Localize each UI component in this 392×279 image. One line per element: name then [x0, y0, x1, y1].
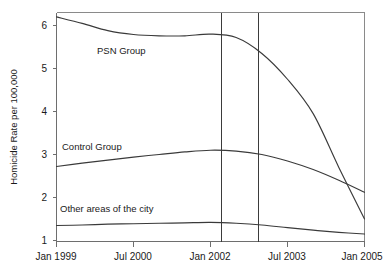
x-tick-label-jan-2002: Jan 2002 — [189, 251, 231, 262]
y-tick-label-5: 5 — [41, 63, 47, 74]
x-tick-label-jul-2003: Jul 2003 — [268, 251, 306, 262]
x-tick-label-jan-1999: Jan 1999 — [35, 251, 77, 262]
y-axis-ticks — [53, 26, 57, 241]
y-tick-label-6: 6 — [41, 20, 47, 31]
y-axis-title: Homicide Rate per 100,000 — [8, 69, 19, 185]
homicide-rate-line-chart: 6 5 4 3 2 1 Homicide Rate per 100,000 Ja… — [0, 0, 392, 279]
series-label-control-group: Control Group — [62, 141, 122, 152]
x-tick-label-jan-2005: Jan 2005 — [341, 251, 383, 262]
series-line-other-areas — [57, 222, 365, 234]
y-tick-label-1: 1 — [41, 235, 47, 246]
x-axis-ticks — [57, 242, 365, 247]
y-tick-label-2: 2 — [41, 192, 47, 203]
series-label-psn-group: PSN Group — [97, 45, 146, 56]
y-tick-label-4: 4 — [41, 106, 47, 117]
series-line-control-group — [57, 150, 365, 192]
chart-container: 6 5 4 3 2 1 Homicide Rate per 100,000 Ja… — [0, 0, 392, 279]
y-tick-label-3: 3 — [41, 149, 47, 160]
x-tick-label-jul-2000: Jul 2000 — [114, 251, 152, 262]
series-label-other-areas: Other areas of the city — [60, 203, 154, 214]
